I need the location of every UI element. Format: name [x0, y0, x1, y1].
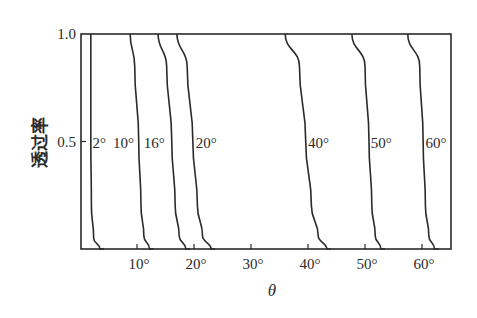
- y-tick-label: 0.5: [57, 134, 76, 150]
- y-axis-title: 透过率: [30, 117, 50, 168]
- y-tick-label: 1.0: [57, 26, 76, 42]
- plot-border: [81, 34, 451, 249]
- curve-labels: 2°10°16°20°40°50°60°: [93, 135, 447, 151]
- plot-frame: [81, 34, 451, 249]
- x-tick-label: 50°: [357, 256, 378, 272]
- x-axis-title: θ: [268, 281, 276, 300]
- curve-label: 16°: [144, 135, 165, 151]
- x-tick-label: 60°: [414, 256, 435, 272]
- curve-label: 2°: [93, 135, 107, 151]
- curve-label: 20°: [196, 135, 217, 151]
- x-tick-label: 30°: [243, 256, 264, 272]
- curve-label: 60°: [425, 135, 446, 151]
- x-tick-label: 20°: [186, 256, 207, 272]
- x-tick-label: 10°: [129, 256, 150, 272]
- x-tick-label: 40°: [300, 256, 321, 272]
- curve-label: 50°: [371, 135, 392, 151]
- curve-label: 10°: [113, 135, 134, 151]
- curve-label: 40°: [308, 135, 329, 151]
- transmittance-chart: 10°20°30°40°50°60° 0.51.0 2°10°16°20°40°…: [0, 0, 477, 318]
